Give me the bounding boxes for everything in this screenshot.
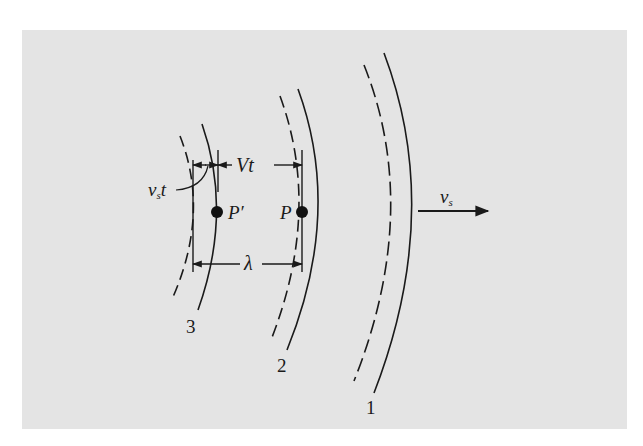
vt-dimension: Vt xyxy=(218,154,302,176)
doppler-wavefront-diagram: Vt vst λ P′ P vs 1 2 3 xyxy=(0,0,643,446)
vst-dimension: vst xyxy=(148,165,218,201)
lambda-label: λ xyxy=(243,252,253,274)
wavefront-1 xyxy=(354,53,412,393)
wavefront-3-label: 3 xyxy=(186,316,196,337)
point-p: P xyxy=(279,202,308,223)
wavefront-3-dashed xyxy=(173,136,193,297)
vst-label: vst xyxy=(148,179,167,201)
velocity-arrow: vs xyxy=(418,186,488,211)
wavefront-2 xyxy=(271,89,318,350)
wavefront-1-solid xyxy=(374,53,412,393)
vt-label: Vt xyxy=(236,154,254,176)
wavefront-2-label: 2 xyxy=(277,355,287,376)
wavefront-1-dashed xyxy=(354,65,391,381)
point-p-label: P xyxy=(279,202,292,223)
wavefront-1-label: 1 xyxy=(366,397,376,418)
wavefront-3 xyxy=(173,124,217,310)
point-p-prime-label: P′ xyxy=(227,202,245,223)
velocity-label: vs xyxy=(440,186,453,208)
